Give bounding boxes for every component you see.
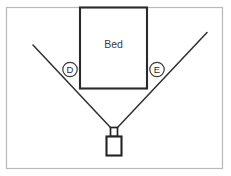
bed-label: Bed xyxy=(104,38,123,50)
diagram-canvas: Bed D E xyxy=(0,0,231,176)
bed-camera-diagram: Bed D E xyxy=(0,0,231,176)
camera-neck xyxy=(111,128,118,137)
callout-e: E xyxy=(150,62,164,76)
camera-body xyxy=(107,137,122,156)
callout-d: D xyxy=(63,62,77,76)
callout-e-label: E xyxy=(154,64,160,75)
callout-d-label: D xyxy=(67,64,74,75)
